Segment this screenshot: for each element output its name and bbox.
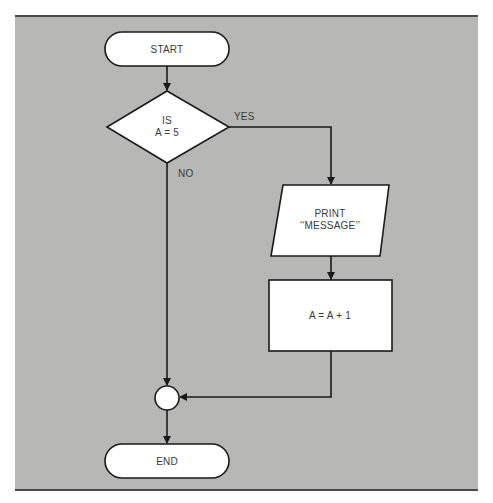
print-node: PRINT ‘‘MESSAGE’’ bbox=[271, 185, 389, 256]
start-node: START bbox=[105, 32, 229, 66]
decision-label-line2: A = 5 bbox=[155, 127, 179, 138]
connector-node bbox=[155, 386, 179, 410]
edge-process-connector bbox=[180, 351, 331, 397]
start-label: START bbox=[151, 44, 184, 55]
decision-node: IS A = 5 bbox=[107, 91, 229, 163]
end-node: END bbox=[105, 444, 229, 478]
print-label-line1: PRINT bbox=[315, 208, 346, 219]
no-label: NO bbox=[178, 168, 193, 179]
edge-yes bbox=[229, 127, 331, 184]
process-node: A = A + 1 bbox=[269, 280, 392, 351]
yes-label: YES bbox=[234, 111, 255, 122]
flowchart: START IS A = 5 YES NO PRINT ‘‘MESSAGE’’ … bbox=[0, 0, 493, 503]
process-label: A = A + 1 bbox=[309, 310, 351, 321]
end-label: END bbox=[156, 456, 178, 467]
print-label-line2: ‘‘MESSAGE’’ bbox=[300, 220, 360, 231]
decision-label-line1: IS bbox=[162, 115, 172, 126]
